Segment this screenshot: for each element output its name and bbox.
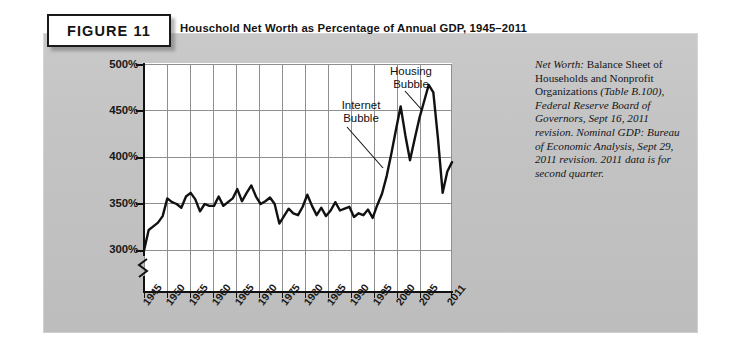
figure-number-box: FIGURE 11 [47, 14, 171, 47]
annotation-housing-bubble-line2: Bubble [375, 78, 447, 91]
plot-area-background [144, 63, 452, 292]
ytick-label-300: 300% [92, 243, 138, 255]
source-note-italic: (Table B.100), Federal Reserve Board of … [535, 85, 680, 179]
figure-container: FIGURE 11 Houschold Net Worth as Percent… [0, 0, 736, 361]
ytick-label-350: 350% [92, 197, 138, 209]
annotation-internet-bubble-line2: Bubble [325, 112, 397, 125]
ytick-label-400: 400% [92, 150, 138, 162]
figure-title: Houschold Net Worth as Percentage of Ann… [180, 22, 527, 34]
figure-number-label: FIGURE 11 [67, 23, 151, 39]
annotation-housing-bubble: Housing Bubble [375, 65, 447, 90]
annotation-internet-bubble: Internet Bubble [325, 99, 397, 124]
source-note: Net Worth: Balance Sheet of Households a… [535, 58, 687, 180]
ytick-label-500: 500% [92, 58, 138, 70]
ytick-label-450: 450% [92, 104, 138, 116]
source-note-lead: Net Worth: [535, 58, 584, 70]
annotation-internet-bubble-line1: Internet [325, 99, 397, 112]
annotation-housing-bubble-line1: Housing [375, 65, 447, 78]
